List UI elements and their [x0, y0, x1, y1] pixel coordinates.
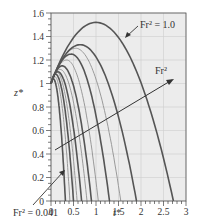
- x-tick-label: 3: [184, 207, 189, 217]
- y-axis-label: z*: [13, 87, 23, 98]
- y-tick-label: 0.8: [32, 103, 44, 113]
- y-tick-label: 0.6: [32, 126, 44, 136]
- annotation-fr2-1: Fr² = 1.0: [140, 19, 175, 30]
- y-tick-label: 1.4: [32, 32, 44, 42]
- annotation-fr2-0041: Fr² = 0.041: [13, 207, 58, 218]
- y-tick-label: 0: [39, 197, 44, 207]
- x-tick-label: 0.5: [68, 207, 80, 217]
- y-tick-label: 0.2: [32, 173, 44, 183]
- y-tick-label: 1: [39, 79, 44, 89]
- y-tick-label: 1.2: [32, 56, 44, 66]
- y-tick-label: 0.4: [32, 150, 44, 160]
- annotation-fr2-direction: Fr²: [155, 65, 167, 76]
- y-tick-label: 1.6: [32, 9, 44, 19]
- x-tick-label: 2: [139, 207, 144, 217]
- x-axis-label: t*: [113, 207, 121, 218]
- x-tick-label: 1: [94, 207, 99, 217]
- trajectory-chart: 00.511.522.5300.20.40.60.811.21.41.6 z* …: [0, 0, 198, 221]
- x-tick-label: 2.5: [158, 207, 170, 217]
